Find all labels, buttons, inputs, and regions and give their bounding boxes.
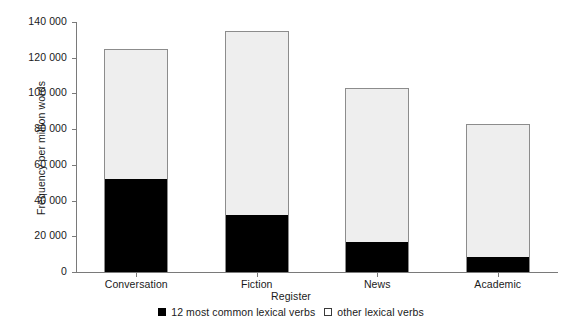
x-axis-title: Register <box>0 290 582 302</box>
x-tick-label: Fiction <box>197 278 318 290</box>
y-tick: 20 000 <box>72 236 76 237</box>
x-tick-label: Academic <box>438 278 559 290</box>
bar-segment-12-most-common-lexical-verbs[interactable] <box>225 215 289 272</box>
bar-segment-12-most-common-lexical-verbs[interactable] <box>104 179 168 272</box>
black-square-icon <box>158 308 166 316</box>
bar-group[interactable] <box>466 22 530 272</box>
y-tick-label: 40 000 <box>34 194 67 206</box>
legend-item[interactable]: 12 most common lexical verbs <box>158 306 315 318</box>
x-tick <box>257 273 258 277</box>
y-tick-label: 60 000 <box>34 158 67 170</box>
bar-segment-other-lexical-verbs[interactable] <box>225 31 289 215</box>
y-tick-label: 140 000 <box>28 15 67 27</box>
y-tick-label: 120 000 <box>28 51 67 63</box>
y-tick-label: 20 000 <box>34 229 67 241</box>
x-tick-label: News <box>317 278 438 290</box>
bar-segment-12-most-common-lexical-verbs[interactable] <box>345 242 409 272</box>
bar-segment-12-most-common-lexical-verbs[interactable] <box>466 257 530 272</box>
bar-segment-other-lexical-verbs[interactable] <box>466 124 530 257</box>
x-axis-line <box>76 272 558 273</box>
x-tick <box>498 273 499 277</box>
y-tick: 40 000 <box>72 201 76 202</box>
bar-stack[interactable] <box>225 31 289 272</box>
white-square-icon <box>324 308 332 316</box>
y-tick: 80 000 <box>72 129 76 130</box>
bar-group[interactable] <box>345 22 409 272</box>
bar-group[interactable] <box>104 22 168 272</box>
y-tick: 120 000 <box>72 58 76 59</box>
bar-stack[interactable] <box>104 49 168 272</box>
bar-segment-other-lexical-verbs[interactable] <box>345 88 409 242</box>
y-tick: 0 <box>72 272 76 273</box>
x-tick <box>136 273 137 277</box>
y-axis-line <box>76 22 77 273</box>
legend-label: other lexical verbs <box>337 306 424 318</box>
y-tick: 140 000 <box>72 22 76 23</box>
y-tick: 100 000 <box>72 93 76 94</box>
bar-stack[interactable] <box>345 88 409 272</box>
x-tick <box>377 273 378 277</box>
legend-label: 12 most common lexical verbs <box>171 306 315 318</box>
chart-legend: 12 most common lexical verbsother lexica… <box>0 306 582 318</box>
y-tick-label: 0 <box>61 265 67 277</box>
bar-stack[interactable] <box>466 124 530 272</box>
y-tick-label: 80 000 <box>34 122 67 134</box>
y-tick-label: 100 000 <box>28 86 67 98</box>
legend-item[interactable]: other lexical verbs <box>324 306 424 318</box>
bar-group[interactable] <box>225 22 289 272</box>
bar-segment-other-lexical-verbs[interactable] <box>104 49 168 179</box>
y-tick: 60 000 <box>72 165 76 166</box>
x-tick-label: Conversation <box>76 278 197 290</box>
stacked-bar-chart: Frequency per million words 020 00040 00… <box>0 0 582 325</box>
plot-area: 020 00040 00060 00080 000100 000120 0001… <box>76 22 558 272</box>
